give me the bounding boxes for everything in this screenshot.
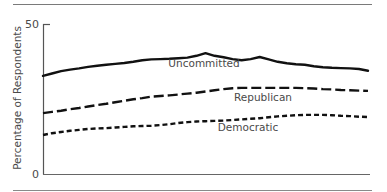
series-line-republican: [43, 88, 368, 113]
series-label-republican: Republican: [234, 91, 292, 103]
series-line-democratic: [43, 115, 368, 135]
y-tick-50: 50: [25, 18, 39, 31]
y-tick-0: 0: [32, 168, 39, 181]
chart-canvas: 50 0 Percentage of Respondents Uncommitt…: [0, 0, 387, 192]
series-label-democratic: Democratic: [218, 121, 279, 133]
line-chart: 50 0 Percentage of Respondents Uncommitt…: [0, 0, 387, 192]
series-label-uncommitted: Uncommitted: [168, 57, 239, 69]
y-axis-title: Percentage of Respondents: [11, 26, 23, 170]
